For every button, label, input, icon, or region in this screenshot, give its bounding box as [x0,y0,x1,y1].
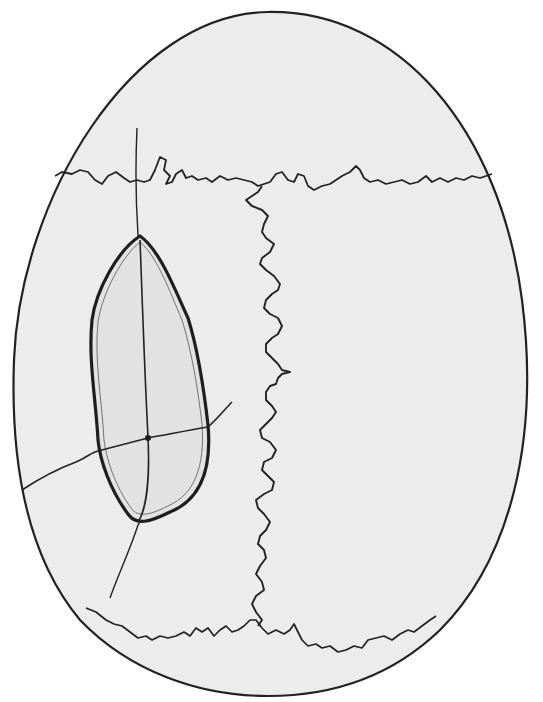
skull-diagram [0,0,543,702]
junction-point [145,435,151,441]
